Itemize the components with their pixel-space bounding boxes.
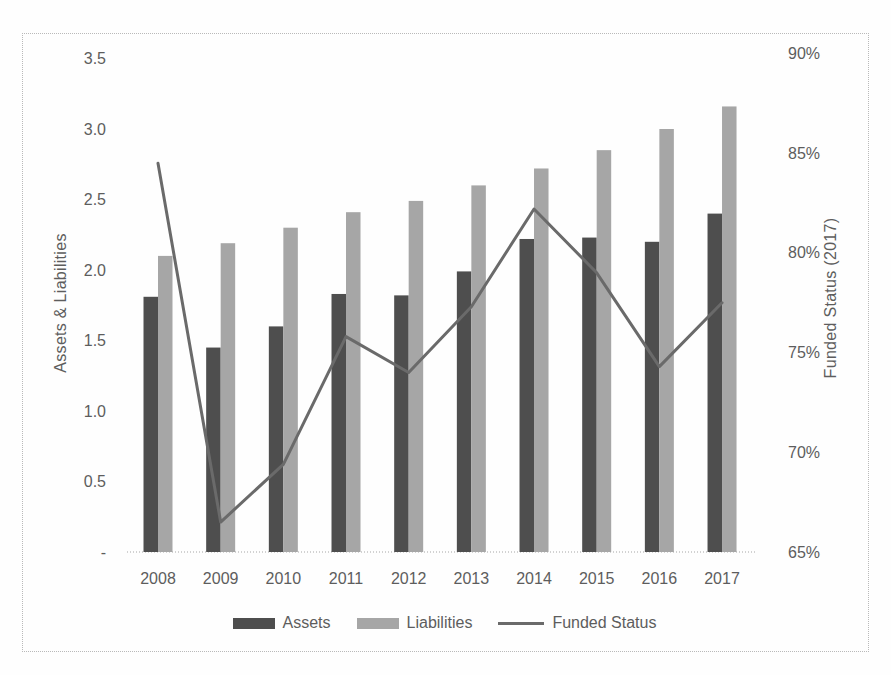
left-tick-3.0: 3.0 <box>84 121 106 138</box>
legend-item-funded-status: Funded Status <box>498 614 656 632</box>
liabilities-swatch <box>357 618 399 629</box>
bar-assets-2016 <box>645 242 660 552</box>
left-tick-1.5: 1.5 <box>84 332 106 349</box>
legend-label-assets: Assets <box>283 614 331 632</box>
right-tick-90%: 90% <box>788 45 820 62</box>
bar-liabilities-2016 <box>659 129 674 552</box>
x-axis-label-2010: 2010 <box>266 570 302 587</box>
x-axis-labels: 2008200920102011201220132014201520162017 <box>140 570 740 587</box>
bar-liabilities-2009 <box>221 243 236 552</box>
bar-liabilities-2013 <box>471 185 486 552</box>
right-axis-tick-labels: 90%85%80%75%70%65% <box>788 45 820 561</box>
bar-assets-2011 <box>332 294 347 552</box>
x-axis-label-2017: 2017 <box>704 570 740 587</box>
left-tick-1.0: 1.0 <box>84 403 106 420</box>
funded-status-line-swatch <box>498 622 544 625</box>
bar-liabilities-2017 <box>722 106 737 552</box>
bar-assets-2017 <box>708 214 723 552</box>
bar-liabilities-2010 <box>283 228 298 552</box>
bar-assets-2015 <box>582 238 597 552</box>
x-axis-label-2016: 2016 <box>642 570 678 587</box>
left-axis-tick-labels: 3.53.02.52.01.51.00.5- <box>84 50 106 561</box>
right-tick-80%: 80% <box>788 244 820 261</box>
bar-assets-2008 <box>144 297 159 552</box>
chart-figure: 3.53.02.52.01.51.00.5-90%85%80%75%70%65%… <box>0 0 891 675</box>
bar-liabilities-2014 <box>534 168 549 552</box>
x-axis-label-2013: 2013 <box>454 570 490 587</box>
left-axis-title: Assets & Liabilities <box>52 233 70 372</box>
bar-assets-2010 <box>269 326 284 552</box>
assets-swatch <box>233 618 275 629</box>
right-tick-85%: 85% <box>788 145 820 162</box>
left-tick-3.5: 3.5 <box>84 50 106 67</box>
x-axis-label-2012: 2012 <box>391 570 427 587</box>
legend-label-funded-status: Funded Status <box>552 614 656 632</box>
left-tick-2.5: 2.5 <box>84 191 106 208</box>
x-axis-label-2009: 2009 <box>203 570 239 587</box>
right-tick-70%: 70% <box>788 444 820 461</box>
legend-item-assets: Assets <box>233 614 331 632</box>
x-axis-label-2011: 2011 <box>329 570 364 587</box>
left-tick-2.0: 2.0 <box>84 262 106 279</box>
bar-liabilities-2015 <box>597 150 612 552</box>
x-axis-label-2015: 2015 <box>579 570 615 587</box>
right-axis-title: Funded Status (2017) <box>822 218 840 379</box>
bar-liabilities-2012 <box>409 201 424 552</box>
bar-assets-2012 <box>394 295 409 552</box>
legend-label-liabilities: Liabilities <box>407 614 473 632</box>
right-tick-65%: 65% <box>788 544 820 561</box>
x-axis-label-2008: 2008 <box>140 570 176 587</box>
x-axis-label-2014: 2014 <box>516 570 552 587</box>
funded-status-line <box>158 163 722 522</box>
chart-canvas: 3.53.02.52.01.51.00.5-90%85%80%75%70%65%… <box>0 0 891 675</box>
right-tick-75%: 75% <box>788 344 820 361</box>
bar-liabilities-2011 <box>346 212 361 552</box>
left-tick--: - <box>101 544 106 561</box>
bar-liabilities-2008 <box>158 256 173 552</box>
bar-assets-2014 <box>520 239 535 552</box>
legend-item-liabilities: Liabilities <box>357 614 473 632</box>
legend: Assets Liabilities Funded Status <box>22 612 867 634</box>
left-tick-0.5: 0.5 <box>84 473 106 490</box>
